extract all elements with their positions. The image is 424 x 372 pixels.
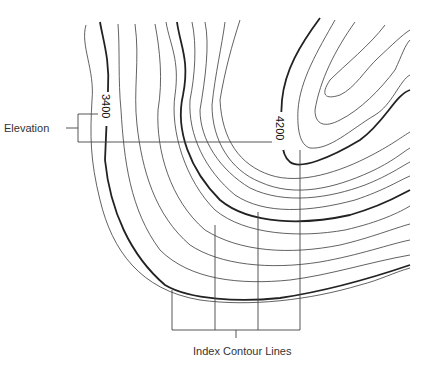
elevation-label-3400: 3400 [100,94,112,118]
contour-lines [85,18,410,303]
elevation-label-4200: 4200 [274,116,286,140]
index-contour-lines-label: Index Contour Lines [193,345,292,357]
contour-diagram: 3400 4200 Elevation Index Contour Lines [0,0,424,372]
elevation-label: Elevation [4,122,49,134]
